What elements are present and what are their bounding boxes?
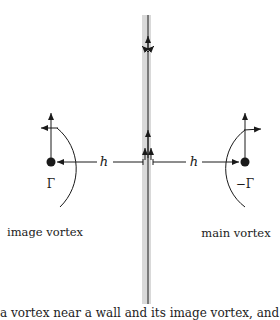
figure-caption: a vortex near a wall and its image vorte… [0,306,280,320]
right-distance-label: h [190,154,198,169]
left-distance-label: h [100,154,108,169]
main-vortex-strength: −Γ [236,177,254,191]
image-vortex-strength: Γ [47,177,55,191]
image-vortex-label: image vortex [7,225,84,239]
main-vortex [153,113,261,207]
main-vortex-label: main vortex [201,226,271,240]
image-vortex [41,113,143,207]
vortex-image-diagram: h h Γ −Γ image vortex main vortex [0,0,280,320]
